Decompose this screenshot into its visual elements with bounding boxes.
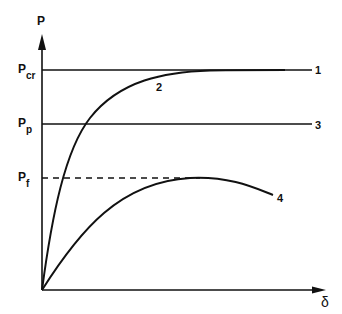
y-axis-label: P xyxy=(37,14,45,28)
load-deflection-diagram: P δ P cr P p P f 1 3 2 4 xyxy=(0,0,342,314)
x-axis: δ xyxy=(42,287,329,311)
curve-3-tag: 3 xyxy=(315,119,321,131)
svg-text:f: f xyxy=(26,178,30,189)
level-label-pp: P p xyxy=(18,116,32,135)
curve-2 xyxy=(42,70,285,290)
curve-1-tag: 1 xyxy=(315,64,321,76)
svg-text:p: p xyxy=(26,124,32,135)
x-axis-label: δ xyxy=(321,294,329,310)
y-axis: P xyxy=(37,14,46,290)
curve-2-tag: 2 xyxy=(156,81,162,93)
level-label-pf: P f xyxy=(18,170,30,189)
y-axis-arrow-icon xyxy=(38,34,46,50)
curve-4-tag: 4 xyxy=(277,192,284,204)
level-label-pcr: P cr xyxy=(18,62,36,81)
svg-text:cr: cr xyxy=(26,70,36,81)
svg-text:P: P xyxy=(18,62,26,76)
svg-text:P: P xyxy=(18,116,26,130)
svg-text:P: P xyxy=(18,170,26,184)
x-axis-arrow-icon xyxy=(312,287,326,294)
curve-4 xyxy=(42,178,273,290)
